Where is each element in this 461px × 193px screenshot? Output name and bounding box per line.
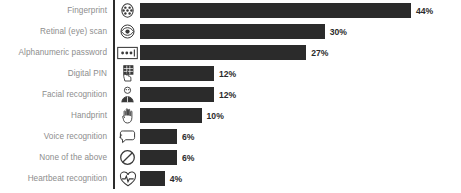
bar (140, 129, 177, 144)
face-recognition-icon (115, 84, 140, 105)
handprint-icon (115, 105, 140, 126)
bar-row: Heartbeat recognition4% (0, 168, 461, 189)
bar-track: 27% (140, 42, 461, 63)
bar-row: Handprint10% (0, 105, 461, 126)
category-label: Facial recognition (0, 90, 113, 100)
bar-row: Alphanumeric password27% (0, 42, 461, 63)
pin-keypad-hand-icon (115, 63, 140, 84)
bar-track: 10% (140, 105, 461, 126)
bar-value-label: 30% (325, 27, 347, 37)
bar-row: Fingerprint44% (0, 0, 461, 21)
bar (140, 108, 202, 123)
voice-speech-bubble-icon (115, 126, 140, 147)
bar-row: Retinal (eye) scan30% (0, 21, 461, 42)
fingerprint-icon (115, 0, 140, 21)
bar-track: 12% (140, 63, 461, 84)
bar-value-label: 12% (214, 90, 236, 100)
category-label: Handprint (0, 111, 113, 121)
bar-row: Facial recognition12% (0, 84, 461, 105)
horizontal-bar-chart: Fingerprint44%Retinal (eye) scan30%Alpha… (0, 0, 461, 193)
bar-track: 6% (140, 126, 461, 147)
bar-value-label: 27% (306, 48, 328, 58)
category-label: None of the above (0, 153, 113, 163)
bar-track: 6% (140, 147, 461, 168)
bar-track: 4% (140, 168, 461, 189)
category-label: Alphanumeric password (0, 48, 113, 58)
category-label: Fingerprint (0, 6, 113, 16)
bar-value-label: 44% (411, 6, 433, 16)
bar (140, 87, 214, 102)
bar-track: 12% (140, 84, 461, 105)
bar-value-label: 10% (202, 111, 224, 121)
bar-value-label: 6% (177, 132, 194, 142)
bar (140, 45, 306, 60)
bar (140, 3, 411, 18)
bar-row: Voice recognition6% (0, 126, 461, 147)
eye-scan-icon (115, 21, 140, 42)
bar-value-label: 4% (165, 174, 182, 184)
category-label: Digital PIN (0, 69, 113, 79)
heartbeat-pulse-icon (115, 168, 140, 189)
bar (140, 150, 177, 165)
bar (140, 66, 214, 81)
category-label: Retinal (eye) scan (0, 27, 113, 37)
bar-value-label: 6% (177, 153, 194, 163)
prohibition-none-icon (115, 147, 140, 168)
bar (140, 171, 165, 186)
bar-track: 30% (140, 21, 461, 42)
bar-row: Digital PIN12% (0, 63, 461, 84)
password-field-icon (115, 42, 140, 63)
bar (140, 24, 325, 39)
category-label: Heartbeat recognition (0, 174, 113, 184)
category-label: Voice recognition (0, 132, 113, 142)
bar-track: 44% (140, 0, 461, 21)
bar-row: None of the above6% (0, 147, 461, 168)
bar-value-label: 12% (214, 69, 236, 79)
